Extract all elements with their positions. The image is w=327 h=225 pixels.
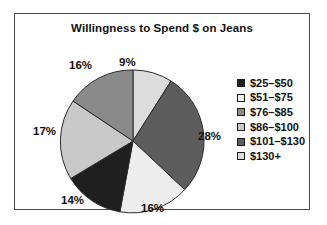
pie-label-bottom-left: 14% [61, 194, 84, 206]
pie-chart: 9% 28% 16% 14% 17% 16% [57, 68, 209, 214]
legend-item-51-75[interactable]: $51–$75 [237, 91, 327, 106]
legend-item-86-100[interactable]: $86–$100 [237, 120, 327, 135]
chart-frame: Willingness to Spend $ on Jeans 9% 28% 1… [14, 13, 310, 210]
legend-label: $86–$100 [250, 122, 299, 133]
legend-item-101-130[interactable]: $101–$130 [237, 134, 327, 149]
pie-label-top-left: 16% [69, 59, 92, 71]
legend: $25–$50 $51–$75 $76–$85 $86–$100 $101–$1… [237, 76, 327, 164]
legend-swatch-icon [237, 79, 245, 87]
legend-item-130-plus[interactable]: $130+ [237, 149, 327, 164]
pie-label-right: 28% [198, 130, 221, 142]
legend-swatch-icon [237, 108, 245, 116]
pie-svg [57, 68, 209, 214]
legend-swatch-icon [237, 138, 245, 146]
legend-label: $25–$50 [250, 78, 293, 89]
pie-label-bottom-right: 16% [141, 202, 164, 214]
legend-item-76-85[interactable]: $76–$85 [237, 105, 327, 120]
legend-label: $130+ [250, 151, 281, 162]
legend-label: $76–$85 [250, 107, 293, 118]
pie-label-top: 9% [119, 56, 136, 68]
pie-label-left: 17% [33, 125, 56, 137]
legend-swatch-icon [237, 123, 245, 131]
legend-swatch-icon [237, 152, 245, 160]
chart-title: Willingness to Spend $ on Jeans [15, 22, 309, 34]
legend-label: $101–$130 [250, 136, 305, 147]
legend-item-25-50[interactable]: $25–$50 [237, 76, 327, 91]
legend-swatch-icon [237, 94, 245, 102]
legend-label: $51–$75 [250, 92, 293, 103]
